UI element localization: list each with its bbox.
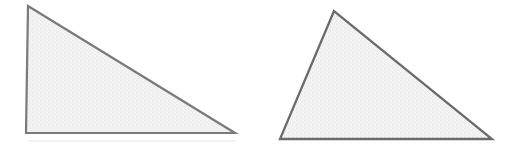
- figure-canvas: [0, 0, 522, 152]
- geometry-figure: [0, 0, 522, 152]
